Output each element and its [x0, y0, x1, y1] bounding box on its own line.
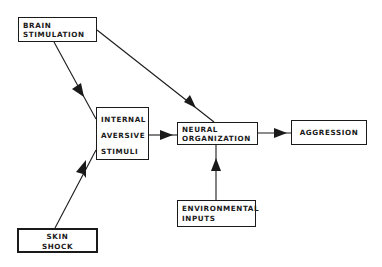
- node-skin-shock: SKIN SHOCK: [17, 228, 98, 253]
- node-label-line: STIMULI: [101, 144, 144, 160]
- diagram-canvas: BRAIN STIMULATION INTERNAL AVERSIVE STIM…: [0, 0, 382, 267]
- node-brain-stimulation: BRAIN STIMULATION: [18, 17, 97, 42]
- arrowhead-icon: [211, 158, 221, 171]
- node-label-line: ENVIRONMENTAL: [182, 204, 251, 214]
- arrowhead-icon: [76, 160, 86, 178]
- node-label-line: AVERSIVE: [101, 128, 144, 144]
- arrowhead-icon: [160, 130, 173, 140]
- node-label-line: NEURAL: [182, 125, 253, 134]
- edge-skin-to-internal: [55, 150, 96, 228]
- node-internal-aversive-stimuli: INTERNAL AVERSIVE STIMULI: [96, 107, 149, 160]
- node-label-line: INTERNAL: [101, 112, 144, 128]
- node-neural-organization: NEURAL ORGANIZATION: [177, 122, 258, 145]
- node-label-line: AGGRESSION: [296, 128, 362, 138]
- arrowhead-icon: [274, 128, 287, 138]
- arrowhead-icon: [184, 95, 196, 108]
- node-label-line: SHOCK: [23, 242, 92, 252]
- node-label-line: BRAIN: [23, 21, 92, 30]
- node-label-line: STIMULATION: [23, 30, 92, 39]
- arrowhead-icon: [72, 83, 84, 97]
- node-label-line: INPUTS: [182, 214, 251, 224]
- node-aggression: AGGRESSION: [291, 120, 367, 145]
- edge-brain-to-internal: [54, 42, 96, 119]
- node-environmental-inputs: ENVIRONMENTAL INPUTS: [177, 200, 256, 227]
- node-label-line: SKIN: [23, 232, 92, 242]
- node-label-line: ORGANIZATION: [182, 134, 253, 143]
